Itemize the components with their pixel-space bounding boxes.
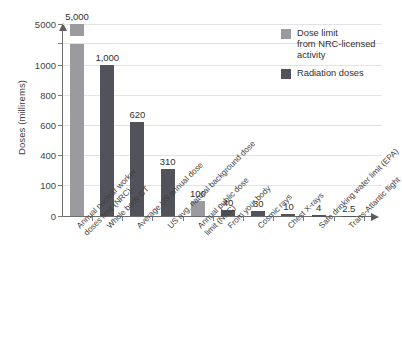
legend-item-dose-limit: Dose limit from NRC-licensed activity [281, 28, 396, 62]
legend-swatch-light-gray-icon [281, 29, 291, 39]
chart-legend: Dose limit from NRC-licensed activity Ra… [281, 28, 396, 85]
legend-label-radiation-doses: Radiation doses [297, 68, 396, 79]
x-axis-label: Trans-Atlantic flight [347, 175, 402, 231]
legend-label-dose-limit: Dose limit from NRC-licensed activity [297, 28, 396, 62]
legend-item-radiation-doses: Radiation doses [281, 68, 396, 79]
legend-swatch-dark-gray-icon [281, 69, 291, 79]
